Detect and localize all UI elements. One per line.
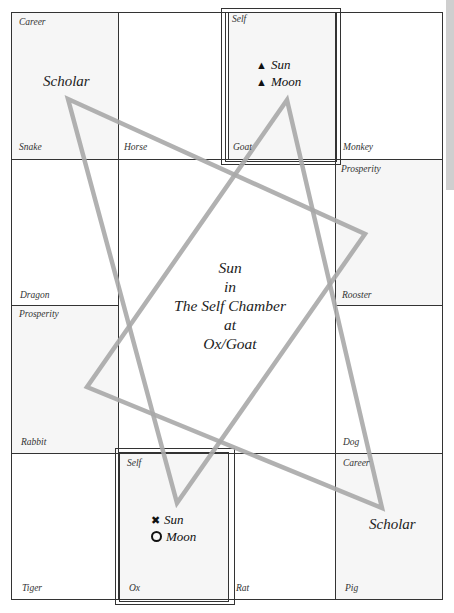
animal-label-ox: Ox bbox=[129, 583, 140, 593]
center-line: in bbox=[150, 277, 310, 296]
chamber-label-career-pig: Career bbox=[343, 458, 370, 468]
animal-label-pig: Pig bbox=[345, 583, 358, 593]
animal-label-dog: Dog bbox=[343, 437, 359, 447]
goat-planet-sun: ▲Sun bbox=[256, 57, 290, 73]
center-line: at bbox=[150, 315, 310, 334]
planet-name: Moon bbox=[271, 74, 301, 89]
goat-planet-moon: ▲Moon bbox=[256, 74, 301, 90]
animal-label-rabbit: Rabbit bbox=[21, 437, 46, 447]
center-caption: Sun in The Self Chamber at Ox/Goat bbox=[150, 258, 310, 353]
ox-planet-moon: Moon bbox=[151, 529, 196, 545]
animal-label-snake: Snake bbox=[19, 142, 42, 152]
scholar-label-top: Scholar bbox=[43, 73, 90, 90]
chamber-label-prosperity-rabbit: Prosperity bbox=[19, 309, 59, 319]
triangle-icon: ▲ bbox=[256, 76, 267, 88]
animal-label-tiger: Tiger bbox=[22, 583, 42, 593]
planet-name: Sun bbox=[164, 512, 184, 527]
center-line: Sun bbox=[150, 258, 310, 277]
chamber-label-self-goat: Self bbox=[232, 14, 246, 24]
chamber-label-career-snake: Career bbox=[19, 17, 46, 27]
chamber-label-self-ox: Self bbox=[127, 458, 141, 468]
ring-icon bbox=[151, 531, 162, 542]
scholar-label-bottom: Scholar bbox=[369, 516, 416, 533]
center-line: Ox/Goat bbox=[150, 334, 310, 353]
triangle-icon: ▲ bbox=[256, 59, 267, 71]
animal-label-rat: Rat bbox=[236, 583, 249, 593]
chamber-label-prosperity-rooster: Prosperity bbox=[341, 164, 381, 174]
planet-name: Moon bbox=[166, 529, 196, 544]
center-line: The Self Chamber bbox=[150, 296, 310, 315]
x-mark-icon: ✖ bbox=[151, 514, 160, 527]
planet-name: Sun bbox=[271, 57, 291, 72]
animal-label-horse: Horse bbox=[124, 142, 147, 152]
animal-label-monkey: Monkey bbox=[343, 142, 373, 152]
animal-label-dragon: Dragon bbox=[20, 290, 50, 300]
animal-label-rooster: Rooster bbox=[342, 290, 372, 300]
animal-label-goat: Goat bbox=[233, 142, 252, 152]
ox-planet-sun: ✖Sun bbox=[151, 512, 184, 528]
